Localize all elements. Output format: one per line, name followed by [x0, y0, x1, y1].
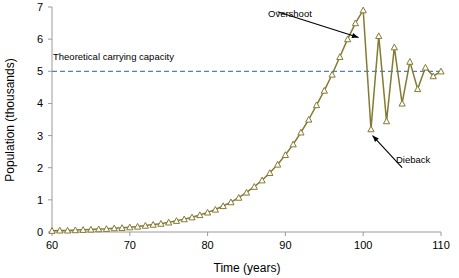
x-tick-label: 70: [124, 239, 136, 251]
x-tick-label: 100: [354, 239, 372, 251]
chart-figure: 01234567 60708090100110 Theoretical carr…: [0, 0, 459, 278]
y-axis-title: Population (thousands): [3, 58, 17, 181]
carrying-capacity-label: Theoretical carrying capacity: [53, 51, 174, 62]
y-tick-label: 5: [37, 65, 43, 77]
x-tick-label: 90: [279, 239, 291, 251]
y-tick-label: 7: [37, 1, 43, 13]
y-tick-label: 1: [37, 194, 43, 206]
y-tick-label: 6: [37, 33, 43, 45]
x-tick-label: 60: [46, 239, 58, 251]
y-tick-label: 3: [37, 130, 43, 142]
annotation-overshoot-label: Overshoot: [268, 8, 312, 19]
y-tick-label: 0: [37, 226, 43, 238]
population-overshoot-chart: 01234567 60708090100110 Theoretical carr…: [0, 0, 459, 278]
plot-background: [0, 0, 459, 278]
x-axis-title: Time (years): [214, 261, 281, 275]
x-tick-label: 80: [201, 239, 213, 251]
y-tick-label: 2: [37, 162, 43, 174]
annotation-dieback-label: Dieback: [396, 154, 431, 165]
y-tick-label: 4: [37, 97, 43, 109]
x-tick-label: 110: [432, 239, 450, 251]
